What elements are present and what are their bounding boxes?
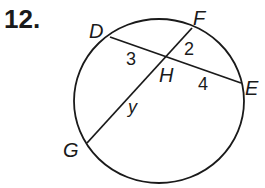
- chord-diagram: 12. D F H E G 3 2 4 y: [0, 0, 265, 188]
- chord-fg: [87, 28, 192, 143]
- point-label-e: E: [245, 77, 259, 99]
- segment-label-hg: y: [126, 97, 138, 117]
- point-label-d: D: [89, 20, 103, 42]
- point-label-h: H: [159, 64, 174, 86]
- segment-label-dh: 3: [126, 49, 136, 69]
- segment-label-he: 4: [198, 74, 208, 94]
- point-label-f: F: [193, 7, 207, 29]
- circle: [74, 19, 244, 183]
- problem-number: 12.: [4, 4, 40, 34]
- segment-label-fh: 2: [184, 39, 194, 59]
- point-label-g: G: [63, 139, 79, 161]
